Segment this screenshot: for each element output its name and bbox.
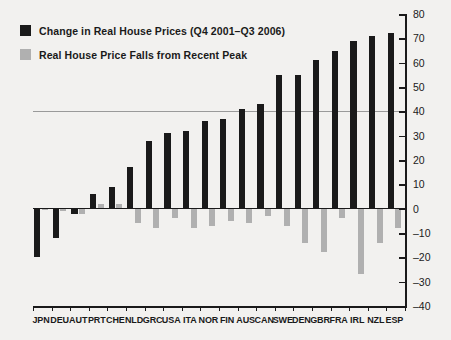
bar-grc-series-1 bbox=[146, 141, 152, 209]
y-tick-label-60: 60 bbox=[413, 57, 425, 69]
x-label-nor: NOR bbox=[199, 315, 219, 325]
x-label-fin: FIN bbox=[220, 315, 234, 325]
y-tick-30 bbox=[399, 136, 406, 138]
y-tick-50 bbox=[399, 87, 406, 89]
bar-irl-series-1 bbox=[350, 41, 356, 209]
x-label-can: CAN bbox=[255, 315, 274, 325]
x-tick-ita bbox=[182, 306, 183, 311]
bar-nld-series-2 bbox=[135, 209, 141, 224]
y-tick-40 bbox=[399, 111, 406, 113]
house-prices-bar-chart: Change in Real House Prices (Q4 2001–Q3 … bbox=[0, 0, 451, 340]
x-tick-gbr bbox=[312, 306, 313, 311]
x-label-aut: AUT bbox=[69, 315, 87, 325]
y-tick--20 bbox=[399, 257, 406, 259]
x-tick-aut bbox=[70, 306, 71, 311]
bar-deu-series-1 bbox=[53, 209, 59, 238]
y-tick-80 bbox=[399, 14, 406, 16]
bar-nor-series-2 bbox=[209, 209, 215, 226]
y-tick-10 bbox=[399, 184, 406, 186]
legend-swatch-black bbox=[20, 25, 31, 36]
x-label-swe: SWE bbox=[273, 315, 293, 325]
x-label-nzl: NZL bbox=[367, 315, 384, 325]
y-tick-label-80: 80 bbox=[413, 8, 425, 20]
bar-group-can bbox=[257, 14, 276, 306]
bar-fra-series-1 bbox=[332, 51, 338, 209]
bar-group-fin bbox=[220, 14, 239, 306]
bar-irl-series-2 bbox=[358, 209, 364, 275]
bar-esp-series-2 bbox=[395, 209, 401, 228]
x-tick-usa bbox=[163, 306, 164, 311]
bar-den-series-1 bbox=[295, 75, 301, 209]
bar-usa-series-1 bbox=[164, 133, 170, 208]
bar-nzl-series-1 bbox=[369, 36, 375, 209]
y-tick-label-50: 50 bbox=[413, 81, 425, 93]
bar-swe-series-2 bbox=[284, 209, 290, 226]
x-tick-end bbox=[405, 306, 406, 311]
x-label-deu: DEU bbox=[50, 315, 69, 325]
x-label-grc: GRC bbox=[143, 315, 163, 325]
legend-swatch-gray bbox=[20, 49, 31, 60]
bar-group-prt bbox=[90, 14, 109, 306]
zero-line bbox=[33, 208, 405, 210]
x-label-jpn: JPN bbox=[32, 315, 49, 325]
y-tick-label-0: 0 bbox=[413, 203, 419, 215]
bar-can-series-1 bbox=[257, 104, 263, 209]
y-tick-20 bbox=[399, 160, 406, 162]
bar-che-series-1 bbox=[109, 187, 115, 209]
x-tick-che bbox=[107, 306, 108, 311]
x-tick-can bbox=[256, 306, 257, 311]
bar-gbr-series-1 bbox=[313, 60, 319, 208]
x-tick-nor bbox=[200, 306, 201, 311]
bar-group-den bbox=[295, 14, 314, 306]
x-tick-jpn bbox=[33, 306, 34, 311]
x-label-esp: ESP bbox=[386, 315, 404, 325]
bar-ita-series-2 bbox=[191, 209, 197, 228]
x-tick-grc bbox=[145, 306, 146, 311]
x-tick-deu bbox=[52, 306, 53, 311]
bar-group-aut bbox=[71, 14, 90, 306]
y-tick-60 bbox=[399, 63, 406, 65]
bar-fra-series-2 bbox=[339, 209, 345, 219]
x-tick-nzl bbox=[368, 306, 369, 311]
bar-group-nzl bbox=[369, 14, 388, 306]
y-tick--10 bbox=[399, 233, 406, 235]
y-tick--30 bbox=[399, 282, 406, 284]
x-label-che: CHE bbox=[106, 315, 125, 325]
x-tick-swe bbox=[275, 306, 276, 311]
y-tick-label-70: 70 bbox=[413, 32, 425, 44]
y-tick-label-30: 30 bbox=[413, 130, 425, 142]
y-tick-label-10: 10 bbox=[413, 178, 425, 190]
bar-group-gbr bbox=[313, 14, 332, 306]
bar-usa-series-2 bbox=[172, 209, 178, 219]
bar-gbr-series-2 bbox=[321, 209, 327, 253]
x-label-aus: AUS bbox=[236, 315, 255, 325]
bar-den-series-2 bbox=[302, 209, 308, 243]
bar-can-series-2 bbox=[265, 209, 271, 216]
x-label-prt: PRT bbox=[88, 315, 106, 325]
bar-nzl-series-2 bbox=[377, 209, 383, 243]
bar-fin-series-2 bbox=[228, 209, 234, 221]
x-tick-den bbox=[293, 306, 294, 311]
x-label-nld: NLD bbox=[125, 315, 143, 325]
bar-esp-series-1 bbox=[388, 33, 394, 208]
bar-ita-series-1 bbox=[183, 131, 189, 209]
bar-prt-series-1 bbox=[90, 194, 96, 209]
bar-group-grc bbox=[146, 14, 165, 306]
bar-group-irl bbox=[350, 14, 369, 306]
bar-group-nor bbox=[202, 14, 221, 306]
bar-group-swe bbox=[276, 14, 295, 306]
bar-group-fra bbox=[332, 14, 351, 306]
y-tick-label--20: –20 bbox=[413, 251, 431, 263]
bar-swe-series-1 bbox=[276, 75, 282, 209]
bar-group-jpn bbox=[34, 14, 53, 306]
bar-jpn-series-1 bbox=[34, 209, 40, 258]
bar-aus-series-1 bbox=[239, 109, 245, 209]
x-label-den: DEN bbox=[292, 315, 311, 325]
x-tick-irl bbox=[349, 306, 350, 311]
x-tick-fra bbox=[331, 306, 332, 311]
x-label-ita: ITA bbox=[183, 315, 197, 325]
x-tick-esp bbox=[386, 306, 387, 311]
plot-area bbox=[33, 14, 405, 306]
bar-group-ita bbox=[183, 14, 202, 306]
bar-group-usa bbox=[164, 14, 183, 306]
